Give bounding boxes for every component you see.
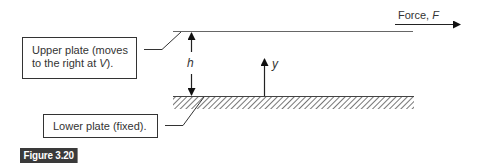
upper-plate-label-line2: to the right at V). <box>32 57 136 70</box>
force-label: Force, F <box>398 9 439 21</box>
upper-plate-label-line2-suffix: ). <box>107 57 114 69</box>
lower-plate-label: Lower plate (fixed). <box>43 114 158 138</box>
upper-plate-label-line1: Upper plate (moves <box>32 44 136 57</box>
lower-plate-hatch <box>173 96 414 109</box>
upper-plate-label-line2-prefix: to the right at <box>32 57 99 69</box>
y-axis-label: y <box>272 57 278 71</box>
force-label-prefix: Force, <box>398 9 432 21</box>
force-label-variable: F <box>432 9 439 21</box>
lower-plate-label-text: Lower plate (fixed). <box>53 120 157 133</box>
upper-plate-label: Upper plate (moves to the right at V). <box>22 37 137 79</box>
couette-flow-diagram <box>0 0 478 165</box>
velocity-variable: V <box>99 57 106 69</box>
upper-plate-leader-line <box>144 32 181 50</box>
figure-caption-badge: Figure 3.20 <box>20 148 78 163</box>
gap-height-label: h <box>187 56 194 70</box>
